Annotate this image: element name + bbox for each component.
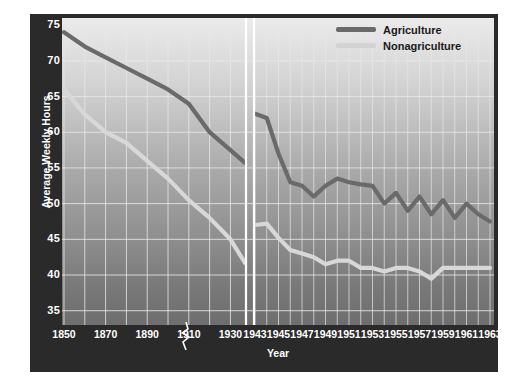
x-axis-title: Year [62, 347, 494, 359]
plot-area [62, 18, 494, 325]
series-line-nonagriculture [64, 89, 245, 263]
x-tick-1949: 1949 [314, 328, 337, 340]
axis-break-divider [246, 18, 254, 325]
y-tick-70: 70 [34, 55, 60, 66]
x-tick-1945: 1945 [267, 328, 290, 340]
y-axis: Average Weekly Hours 757065605550454035 [30, 18, 60, 325]
x-tick-1890: 1890 [136, 328, 159, 340]
legend-label-nonagriculture: Nonagriculture [383, 40, 461, 52]
axis-break-icon [179, 322, 193, 350]
y-tick-40: 40 [34, 269, 60, 280]
series-layer [64, 32, 490, 278]
legend-label-agriculture: Agriculture [383, 24, 442, 36]
x-tick-1947: 1947 [290, 328, 313, 340]
x-tick-1955: 1955 [384, 328, 407, 340]
legend-swatch-agriculture [336, 27, 376, 32]
y-tick-35: 35 [34, 305, 60, 316]
y-tick-55: 55 [34, 162, 60, 173]
x-tick-1870: 1870 [94, 328, 117, 340]
y-tick-65: 65 [34, 91, 60, 102]
legend-item-nonagriculture: Nonagriculture [336, 38, 486, 53]
x-axis: 1850187018901910193019431945194719491951… [62, 328, 494, 346]
chart-container: Average Weekly Hours 757065605550454035 … [0, 0, 510, 386]
plot-svg [62, 18, 494, 325]
legend-swatch-nonagriculture [336, 43, 376, 48]
x-tick-1951: 1951 [337, 328, 360, 340]
y-tick-60: 60 [34, 126, 60, 137]
legend: Agriculture Nonagriculture [336, 22, 486, 54]
x-tick-1943: 1943 [243, 328, 266, 340]
x-tick-1953: 1953 [361, 328, 384, 340]
x-tick-1961: 1961 [455, 328, 478, 340]
x-tick-1963: 1963 [478, 328, 501, 340]
legend-item-agriculture: Agriculture [336, 22, 486, 37]
y-tick-50: 50 [34, 198, 60, 209]
x-tick-1957: 1957 [408, 328, 431, 340]
x-tick-1850: 1850 [52, 328, 75, 340]
x-tick-1959: 1959 [431, 328, 454, 340]
series-line-agriculture [64, 32, 245, 163]
x-tick-1930: 1930 [219, 328, 242, 340]
y-tick-75: 75 [34, 19, 60, 30]
y-tick-45: 45 [34, 233, 60, 244]
